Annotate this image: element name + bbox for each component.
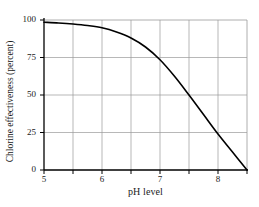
y-tick-label-100: 100 — [12, 14, 36, 24]
chart-figure: 100 75 50 25 0 5 6 7 8 pH level Chlorine… — [0, 0, 259, 207]
y-axis-title: Chlorine effectiveness (percent) — [5, 27, 18, 177]
x-tick-label-5: 5 — [34, 174, 54, 184]
x-tick-label-7: 7 — [150, 174, 170, 184]
x-tick-label-8: 8 — [208, 174, 228, 184]
x-tick-label-6: 6 — [92, 174, 112, 184]
x-axis-title: pH level — [44, 186, 247, 197]
